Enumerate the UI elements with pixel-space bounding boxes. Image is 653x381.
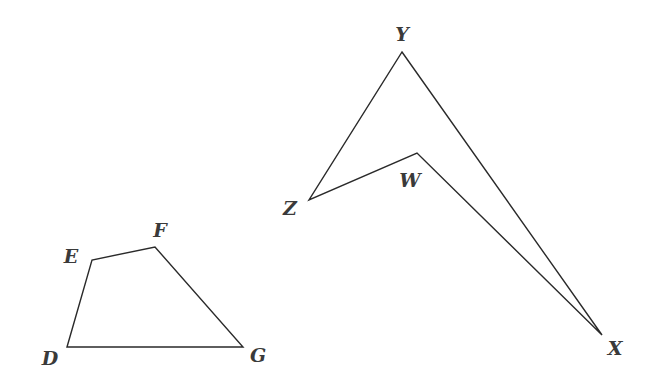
quadrilateral-WXYZ — [309, 52, 602, 335]
vertex-label-w: W — [399, 171, 420, 190]
vertex-label-y: Y — [395, 25, 409, 44]
vertex-label-e: E — [64, 247, 78, 266]
geometry-diagram: D E F G Y Z W X — [0, 0, 653, 381]
vertex-label-x: X — [608, 339, 623, 358]
quadrilateral-DEFG — [67, 247, 243, 347]
vertex-label-d: D — [42, 349, 58, 368]
vertex-label-g: G — [250, 346, 266, 365]
vertex-label-z: Z — [283, 199, 297, 218]
vertex-label-f: F — [153, 221, 167, 240]
diagram-svg — [0, 0, 653, 381]
